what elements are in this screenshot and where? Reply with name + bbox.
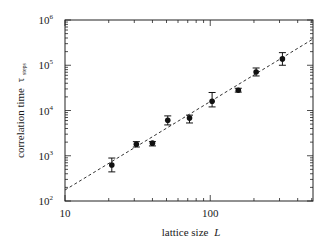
data-point-5 [186, 115, 193, 123]
y-tick-base: 10 [39, 195, 51, 207]
marker [280, 56, 286, 62]
marker [134, 141, 140, 147]
data-point-2 [133, 141, 140, 147]
y-tick-base: 10 [39, 59, 51, 71]
y-tick-label: 103 [39, 149, 54, 162]
fit-line-group [65, 39, 313, 190]
marker [253, 69, 259, 75]
data-point-4 [164, 116, 171, 125]
data-point-3 [149, 140, 156, 146]
y-tick-label: 105 [39, 58, 54, 71]
y-tick-base: 10 [39, 14, 51, 26]
marker [187, 115, 193, 121]
plot-frame [65, 20, 313, 201]
y-tick-exponent: 6 [50, 13, 54, 21]
chart: 10100 102103104105106 lattice size L cor… [0, 0, 331, 247]
fit-line [65, 39, 313, 190]
data-point-7 [235, 87, 242, 93]
y-tick-label: 102 [39, 194, 54, 207]
y-tick-exponent: 4 [50, 104, 54, 112]
x-axis-label: lattice size L [162, 226, 221, 238]
marker [235, 87, 241, 93]
y-tick-label: 106 [39, 13, 54, 26]
y-tick-base: 10 [39, 150, 51, 162]
marker [109, 162, 115, 168]
marker [150, 140, 156, 146]
x-tick-label: 10 [60, 207, 72, 219]
y-tick-labels: 102103104105106 [39, 13, 54, 207]
y-tick-exponent: 2 [50, 194, 54, 202]
x-tick-labels: 10100 [60, 207, 219, 219]
marker [165, 117, 171, 123]
y-axis-label-var: τ [14, 77, 26, 82]
y-axis-label: correlation time τ steps [14, 62, 27, 158]
x-tick-label: 100 [202, 207, 219, 219]
x-axis-label-var: L [213, 226, 220, 238]
y-axis-label-sub: steps [21, 62, 27, 75]
y-tick-base: 10 [39, 105, 51, 117]
y-tick-exponent: 5 [50, 58, 54, 66]
y-axis-label-text: correlation time [14, 88, 26, 158]
axis-ticks [65, 20, 313, 201]
y-tick-exponent: 3 [50, 149, 54, 157]
data-points [108, 53, 286, 172]
data-point-9 [279, 53, 286, 66]
data-point-6 [209, 92, 216, 106]
x-axis-label-text: lattice size [162, 226, 209, 238]
y-tick-label: 104 [39, 104, 54, 117]
marker [209, 98, 215, 104]
